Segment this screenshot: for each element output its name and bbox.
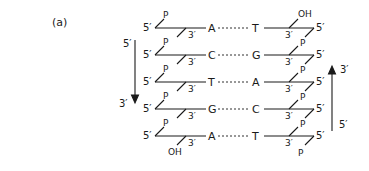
panel-label: (a): [52, 16, 67, 29]
right-phosphate-bond: [305, 136, 314, 145]
right-base: T: [251, 130, 259, 143]
right-3prime-label: 3′: [285, 30, 293, 40]
left-phosphate-bond: [155, 19, 164, 28]
right-phosphate-bond: [305, 82, 314, 91]
right-base: T: [251, 22, 259, 35]
left-3prime-bond: [177, 109, 186, 118]
left-3prime-bond: [177, 28, 186, 37]
base-pair-rows: 5′P3′AT5′3′OHP5′P3′CG5′3′P5′P3′TA5′3′P5′…: [143, 9, 325, 158]
right-3prime-label: 3′: [285, 111, 293, 121]
left-3prime-label: 3′: [188, 84, 196, 94]
arrow-down-icon: [132, 95, 139, 103]
left-3prime-label: 3′: [188, 57, 196, 67]
left-strand-direction-arrow: 5′ 3′: [119, 38, 139, 109]
right-5prime-label: 5′: [316, 76, 325, 87]
right-terminal-5-group: P: [298, 148, 304, 158]
left-5prime-label: 5′: [143, 130, 152, 141]
left-base: T: [207, 76, 215, 89]
right-5prime-label: 5′: [316, 22, 325, 33]
left-3prime-label: 3′: [188, 111, 196, 121]
right-phosphate-bond: [305, 28, 314, 37]
left-base: A: [208, 22, 216, 35]
left-3prime-bond: [177, 136, 186, 145]
right-3prime-bond: [289, 73, 298, 82]
left-5prime-label: 5′: [143, 103, 152, 114]
left-phosphate-bond: [155, 73, 164, 82]
right-phosphate-label: P: [300, 119, 306, 129]
left-phosphate-bond: [155, 100, 164, 109]
left-terminal-3-group: OH: [168, 147, 182, 157]
left-5prime-label: 5′: [143, 49, 152, 60]
left-3prime-label: 3′: [188, 138, 196, 148]
left-phosphate-bond: [155, 127, 164, 136]
right-strand-direction-arrow: 3′ 5′: [329, 64, 350, 131]
right-phosphate-label: P: [300, 65, 306, 75]
right-phosphate-bond: [305, 109, 314, 118]
left-terminal-5-group: P: [163, 10, 169, 20]
right-3prime-bond: [289, 100, 298, 109]
right-3prime-bond: [289, 46, 298, 55]
left-5prime-label: 5′: [143, 22, 152, 33]
left-phosphate-label: P: [163, 37, 169, 47]
arrow-up-icon: [329, 66, 336, 74]
left-phosphate-bond: [155, 46, 164, 55]
right-terminal-3-group: OH: [298, 9, 312, 19]
left-phosphate-label: P: [163, 64, 169, 74]
right-3prime-label: 3′: [285, 57, 293, 67]
right-3prime-label: 3′: [285, 138, 293, 148]
right-arrow-top-label: 3′: [340, 64, 349, 75]
left-3prime-label: 3′: [188, 30, 196, 40]
right-phosphate-bond: [305, 55, 314, 64]
right-3prime-label: 3′: [285, 84, 293, 94]
right-base: A: [252, 76, 260, 89]
left-arrow-top-label: 5′: [123, 38, 132, 49]
left-base: A: [208, 130, 216, 143]
left-base: C: [208, 49, 216, 62]
right-5prime-label: 5′: [316, 49, 325, 60]
left-5prime-label: 5′: [143, 76, 152, 87]
dna-double-strand-diagram: (a) 5′ 3′ 3′ 5′ 5′P3′AT5′3′OHP5′P3′CG5′3…: [0, 0, 369, 171]
left-phosphate-label: P: [163, 91, 169, 101]
right-phosphate-label: P: [300, 38, 306, 48]
right-5prime-label: 5′: [316, 130, 325, 141]
left-arrow-bottom-label: 3′: [119, 98, 128, 109]
right-arrow-bottom-label: 5′: [339, 119, 348, 130]
left-3prime-bond: [177, 55, 186, 64]
right-3prime-bond: [289, 127, 298, 136]
right-base: G: [252, 49, 261, 62]
right-base: C: [252, 103, 260, 116]
right-phosphate-label: P: [300, 92, 306, 102]
right-5prime-label: 5′: [316, 103, 325, 114]
left-base: G: [208, 103, 217, 116]
left-phosphate-label: P: [163, 118, 169, 128]
right-3prime-bond: [289, 19, 298, 28]
left-3prime-bond: [177, 82, 186, 91]
